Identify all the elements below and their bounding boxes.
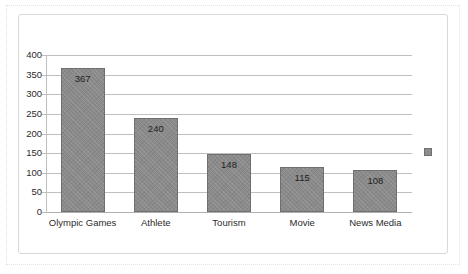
y-axis-tick-label: 150 [4,148,42,158]
y-axis-tick-label: 50 [4,187,42,197]
x-axis-category-label: Athlete [119,217,192,228]
bar-value-label: 148 [208,160,250,170]
y-axis-tick-label: 200 [4,129,42,139]
bar[interactable]: 148 [207,154,251,212]
bar[interactable]: 115 [280,167,324,212]
x-axis-category-label: Olympic Games [46,217,119,228]
y-axis-tick-label: 100 [4,168,42,178]
y-axis-tick-label-text: 300 [8,89,42,99]
x-axis-category-label: Tourism [192,217,265,228]
chart-screenshot: 050100150200250300350400 367240148115108… [0,0,468,274]
y-axis-tick-label: 350 [4,70,42,80]
y-axis-tick-label: 400 [4,50,42,60]
y-axis-tick-label-text: 100 [8,168,42,178]
y-axis-tick-label-text: 350 [8,70,42,80]
bar-series-layer: 367240148115108 [46,55,412,212]
y-axis-tick-label-text: 250 [8,109,42,119]
x-axis-category-label: Movie [266,217,339,228]
y-axis-tick-label-text: 150 [8,148,42,158]
y-axis-tick-label-text: 400 [8,50,42,60]
gridline [46,212,412,213]
y-axis-tick-label-text: 200 [8,129,42,139]
y-axis-tick-label-text: 50 [8,187,42,197]
x-axis-category-label: News Media [339,217,412,228]
y-axis-tick-label: 250 [4,109,42,119]
y-axis-tick-label: 300 [4,89,42,99]
y-axis-tick-label-text: 0 [8,207,42,217]
bar-value-label: 115 [281,173,323,183]
bar-value-label: 108 [354,176,396,186]
y-axis-tick-label: 0 [4,207,42,217]
legend-color-swatch[interactable] [424,148,432,156]
bar[interactable]: 108 [353,170,397,212]
bar-value-label: 367 [62,74,104,84]
bar[interactable]: 240 [134,118,178,212]
bar-value-label: 240 [135,124,177,134]
bar[interactable]: 367 [61,68,105,212]
